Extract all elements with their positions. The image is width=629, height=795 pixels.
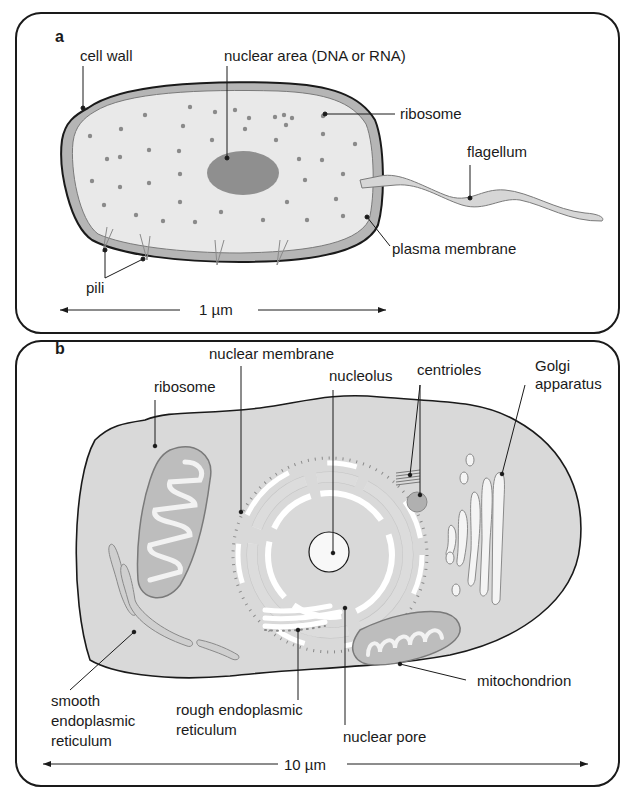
label-cell-wall: cell wall [80, 47, 133, 65]
label-nuclear-area: nuclear area (DNA or RNA) [224, 47, 406, 65]
label-nuclear-pore: nuclear pore [343, 728, 426, 746]
label-ser-line2: endoplasmic [51, 712, 135, 730]
label-rer-line1: rough endoplasmic [176, 701, 303, 719]
label-ser-line3: reticulum [51, 732, 112, 750]
label-ribosome-b: ribosome [154, 378, 216, 396]
label-mitochondrion: mitochondrion [477, 672, 571, 690]
bacterium [61, 82, 603, 265]
label-plasma-membrane: plasma membrane [392, 240, 516, 258]
scale-label-b: 10 µm [284, 756, 326, 774]
flagellum-shape [360, 175, 603, 221]
label-golgi-line1: Golgi [535, 357, 570, 375]
centriole-circle [407, 492, 427, 512]
label-ribosome-a: ribosome [400, 105, 462, 123]
label-golgi-line2: apparatus [535, 375, 602, 393]
label-rer-line2: reticulum [176, 721, 237, 739]
label-nuclear-membrane: nuclear membrane [209, 345, 334, 363]
label-ser-line1: smooth [51, 692, 100, 710]
animal-cell [76, 396, 581, 678]
nucleoid [207, 151, 279, 195]
scale-label-a: 1 µm [199, 301, 233, 319]
label-flagellum: flagellum [467, 143, 527, 161]
label-pili: pili [86, 279, 104, 297]
label-centrioles: centrioles [417, 361, 481, 379]
label-nucleolus: nucleolus [329, 367, 392, 385]
nucleolus-shape [309, 532, 349, 572]
